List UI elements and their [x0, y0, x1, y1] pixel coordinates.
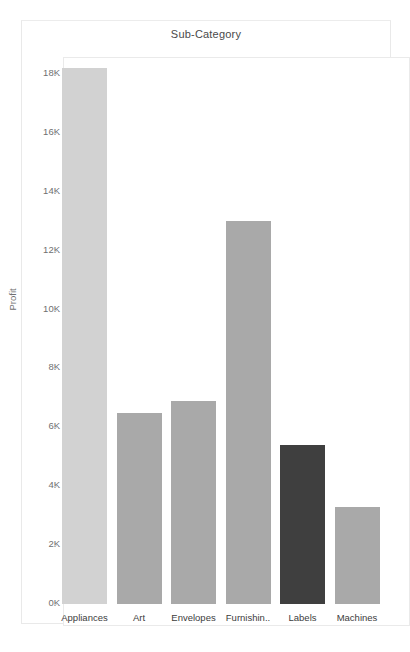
x-axis-label: Art — [109, 612, 170, 623]
x-axis-label: Appliances — [54, 612, 115, 623]
x-axis-label: Furnishin.. — [218, 612, 279, 623]
x-axis-label: Labels — [272, 612, 333, 623]
x-axis-label: Envelopes — [163, 612, 224, 623]
x-axis-label: Machines — [327, 612, 388, 623]
